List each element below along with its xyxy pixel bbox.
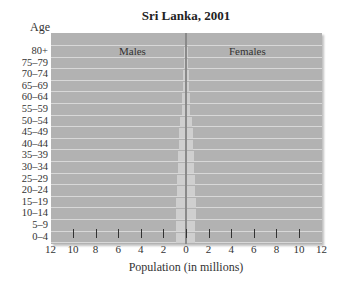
x-tick [73,229,74,238]
bar-males [176,233,185,243]
x-tick [299,229,300,238]
bar-females [187,163,194,173]
bar-males [178,163,185,173]
age-group-label: 15–19 [22,196,48,208]
bar-females [187,82,189,92]
bar-females [187,233,195,243]
bar-females [187,175,195,185]
x-tick-label: 12 [310,243,334,255]
age-group-label: 55–59 [22,103,48,115]
age-group-label: 80+ [32,45,48,57]
bar-females [187,209,196,219]
x-tick [118,229,119,238]
x-tick-label: 12 [38,243,62,255]
age-group-label: 70–74 [22,68,48,80]
x-tick-label: 2 [151,243,175,255]
x-tick-label: 8 [264,243,288,255]
x-tick-label: 6 [106,243,130,255]
x-tick-label: 8 [84,243,108,255]
bar-females [187,105,190,115]
age-group-label: 25–29 [22,173,48,185]
x-tick [141,229,142,238]
age-group-label: 35–39 [22,149,48,161]
bar-females [187,117,192,127]
males-label: Males [119,45,146,57]
age-group-label: 5–9 [32,219,48,231]
bar-females [187,93,190,103]
x-tick-label: 10 [287,243,311,255]
bar-males [177,175,185,185]
plot-area: Males Females [51,33,322,244]
age-group-label: 20–24 [22,184,48,196]
age-group-label: 75–79 [22,57,48,69]
chart-title: Sri Lanka, 2001 [0,8,342,24]
x-tick [186,229,187,238]
x-axis-label: Population (in millions) [0,260,342,275]
x-tick-label: 0 [174,243,198,255]
x-tick-label: 4 [129,243,153,255]
bar-males [176,198,185,208]
bar-females [187,59,188,69]
bar-males [178,151,185,161]
x-tick-label: 6 [242,243,266,255]
x-tick [254,229,255,238]
age-group-label: 65–69 [22,80,48,92]
bar-males [176,221,185,231]
x-tick [163,229,164,238]
bar-females [187,221,195,231]
x-tick [231,229,232,238]
bar-females [187,128,193,138]
age-group-label: 50–54 [22,115,48,127]
x-tick-label: 4 [219,243,243,255]
age-group-label: 40–44 [22,138,48,150]
bar-females [187,140,193,150]
x-tick [276,229,277,238]
x-tick-label: 10 [61,243,85,255]
age-group-label: 30–34 [22,161,48,173]
center-divider [185,33,187,244]
age-group-label: 45–49 [22,126,48,138]
bar-females [187,186,195,196]
y-axis-label: Age [30,20,50,35]
x-tick [209,229,210,238]
age-group-label: 0–4 [32,231,48,243]
x-tick [96,229,97,238]
x-tick-label: 2 [197,243,221,255]
bar-females [187,198,196,208]
age-group-label: 60–64 [22,91,48,103]
females-label: Females [229,45,266,57]
bar-females [187,151,194,161]
bar-females [187,70,189,80]
bar-males [176,209,185,219]
bar-males [177,186,185,196]
age-group-label: 10–14 [22,207,48,219]
bar-females [187,47,188,57]
